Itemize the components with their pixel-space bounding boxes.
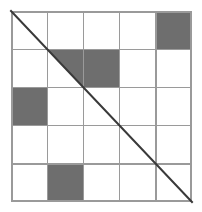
- grid-cell-r5c2: [47, 164, 83, 202]
- grid-area: [11, 11, 192, 202]
- grid-cell-r3c1: [11, 87, 47, 125]
- figure-root: [0, 0, 202, 212]
- grid-cell-r2c3: [83, 49, 119, 87]
- grid-cell-r1c5: [156, 11, 192, 49]
- grid-svg: [11, 11, 192, 202]
